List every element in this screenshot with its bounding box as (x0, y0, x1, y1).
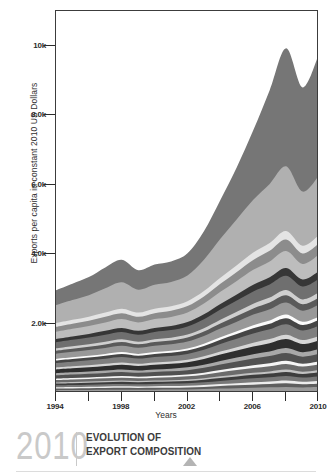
y-tick-mark (44, 45, 55, 46)
plot-area (55, 10, 318, 392)
chart-page: Exports per capita in constant 2010 US D… (0, 0, 332, 472)
x-axis: 19941998200220062010 (55, 392, 318, 412)
chart-figure: Exports per capita in constant 2010 US D… (0, 0, 332, 424)
x-tick-mark (285, 392, 286, 401)
footer-divider (76, 432, 77, 466)
x-axis-label: Years (0, 410, 332, 420)
x-tick-mark (252, 392, 253, 401)
stacked-area-svg (56, 11, 318, 392)
y-tick-mark (44, 323, 55, 324)
x-tick-mark (187, 392, 188, 401)
x-tick-mark (317, 392, 318, 401)
footer-title: EVOLUTION OF EXPORT COMPOSITION (86, 431, 201, 458)
area-layer-group (56, 48, 318, 392)
x-tick-mark (121, 392, 122, 401)
y-tick-mark (44, 253, 55, 254)
x-tick-mark (55, 392, 56, 401)
footer-year: 2010 (16, 426, 89, 466)
footer-caption: 2010 EVOLUTION OF EXPORT COMPOSITION (0, 430, 332, 472)
y-tick-mark (44, 114, 55, 115)
footer-title-line2: EXPORT COMPOSITION (86, 445, 201, 459)
x-tick-mark (154, 392, 155, 401)
y-tick-mark (44, 184, 55, 185)
x-tick-mark (88, 392, 89, 401)
y-axis-ticks: 2.0k4.0k6.0k8.0k10k (0, 0, 52, 424)
footer-title-line1: EVOLUTION OF (86, 431, 201, 445)
x-tick-mark (219, 392, 220, 401)
footer-triangle-icon (183, 457, 197, 466)
